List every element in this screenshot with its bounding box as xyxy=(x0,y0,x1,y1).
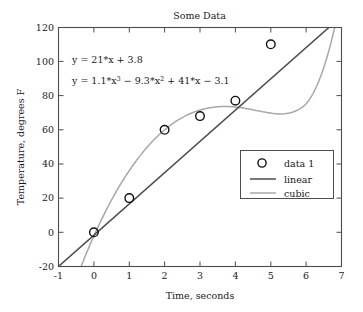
legend-label-data-1[interactable]: data 1 xyxy=(284,158,314,169)
x-tick-label: 0 xyxy=(91,270,97,281)
x-tick-label: 6 xyxy=(303,270,309,281)
x-tick-label: 7 xyxy=(338,270,344,281)
cubic-eq-part1: y = 1.1*x xyxy=(71,75,117,86)
chart-canvas: Some Data xyxy=(0,0,363,312)
cubic-eq-part2: − 9.3*x xyxy=(121,75,161,86)
legend-label-linear[interactable]: linear xyxy=(284,174,312,185)
linear-equation-annotation: y = 21*x + 3.8 xyxy=(71,54,143,65)
x-tick-label: 5 xyxy=(268,270,274,281)
x-tick-label: 1 xyxy=(126,270,132,281)
chart-legend[interactable]: data 1 linear cubic xyxy=(241,151,334,199)
x-axis-title: Time, seconds xyxy=(166,290,235,301)
y-tick-label: 60 xyxy=(42,124,54,135)
y-tick-label: 120 xyxy=(36,22,54,33)
y-tick-label: 0 xyxy=(48,227,54,238)
x-tick-label: -1 xyxy=(54,270,63,281)
x-tick-label: 2 xyxy=(162,270,168,281)
cubic-eq-part3: + 41*x − 3.1 xyxy=(164,75,229,86)
y-tick-label: -20 xyxy=(39,261,54,272)
y-tick-label: 100 xyxy=(36,56,54,67)
legend-label-cubic[interactable]: cubic xyxy=(284,188,310,199)
y-tick-label: 80 xyxy=(42,90,54,101)
y-tick-label: 40 xyxy=(42,158,54,169)
chart-figure: Some Data xyxy=(0,0,363,312)
y-tick-label: 20 xyxy=(42,192,54,203)
chart-title: Some Data xyxy=(173,10,226,21)
cubic-equation-annotation: y = 1.1*x3 − 9.3*x2 + 41*x − 3.1 xyxy=(71,75,230,87)
y-axis-title: Temperature, degrees F xyxy=(15,88,26,205)
x-tick-label: 3 xyxy=(197,270,203,281)
x-tick-label: 4 xyxy=(232,270,238,281)
